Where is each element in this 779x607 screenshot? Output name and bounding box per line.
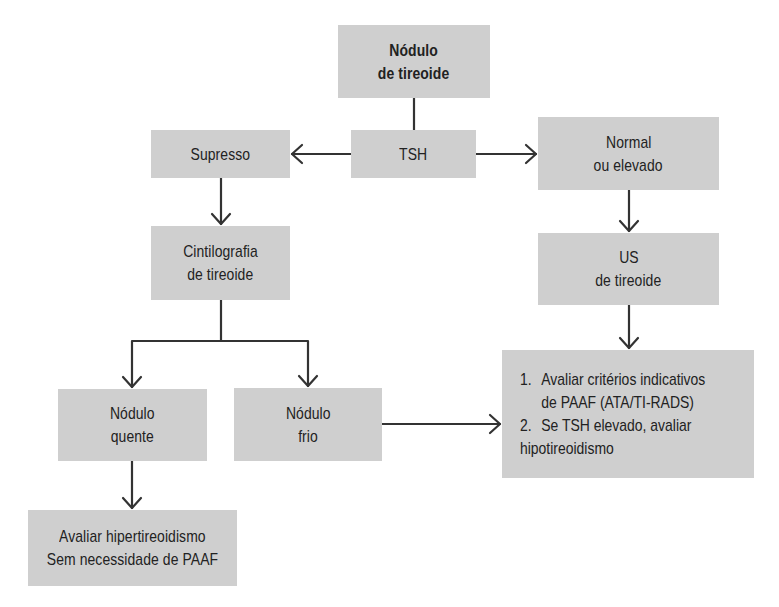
list-number: 2.: [520, 414, 541, 437]
node-label: Cintilografia: [183, 240, 258, 263]
node-avaliar-hipertireoidismo: Avaliar hipertireoidismo Sem necessidade…: [28, 510, 237, 586]
node-label: Normal: [606, 131, 651, 154]
list-number: 1.: [520, 368, 541, 391]
node-label: ou elevado: [594, 154, 663, 177]
node-label: Nódulo: [390, 39, 438, 62]
node-supresso: Supresso: [151, 130, 290, 178]
node-label: Nódulo: [286, 402, 331, 425]
node-label: de tireoide: [187, 263, 253, 286]
node-cintilografia: Cintilografia de tireoide: [151, 226, 290, 300]
node-us-de-tireoide: US de tireoide: [538, 233, 719, 305]
list-text: Se TSH elevado, avaliar: [541, 414, 691, 437]
node-nodulo-de-tireoide: Nódulo de tireoide: [338, 25, 490, 98]
list-text: de PAAF (ATA/TI-RADS): [541, 391, 694, 414]
node-label: Sem necessidade de PAAF: [47, 548, 218, 571]
node-nodulo-quente: Nódulo quente: [58, 389, 207, 461]
node-label: de tireoide: [378, 62, 449, 85]
list-text: hipotireoidismo: [520, 437, 614, 460]
node-nodulo-frio: Nódulo frio: [234, 388, 382, 461]
list-item-1: 1. Avaliar critérios indicativos: [520, 368, 705, 391]
node-normal-ou-elevado: Normal ou elevado: [538, 117, 719, 190]
node-label: Avaliar hipertireoidismo: [59, 525, 206, 548]
node-label: US: [619, 246, 639, 269]
list-item-2-cont: hipotireoidismo: [520, 437, 614, 460]
node-label: TSH: [399, 143, 427, 166]
node-label: quente: [111, 425, 154, 448]
list-item-1-cont: de PAAF (ATA/TI-RADS): [520, 391, 694, 414]
list-item-2: 2. Se TSH elevado, avaliar: [520, 414, 691, 437]
node-avaliar-criterios: 1. Avaliar critérios indicativos de PAAF…: [502, 350, 754, 478]
node-label: frio: [298, 425, 318, 448]
list-text: Avaliar critérios indicativos: [541, 368, 705, 391]
node-label: de tireoide: [595, 269, 661, 292]
node-label: Nódulo: [110, 402, 155, 425]
node-tsh: TSH: [351, 130, 476, 178]
node-label: Supresso: [191, 143, 251, 166]
